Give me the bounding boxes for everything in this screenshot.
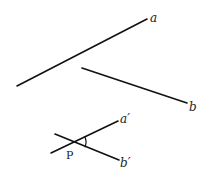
- label-b: b: [189, 100, 197, 114]
- label-b-prime: b′: [120, 156, 131, 170]
- diagram-canvas: a b a′ b′ P: [0, 0, 208, 174]
- angle-arc: [85, 137, 86, 147]
- label-a-prime: a′: [120, 112, 130, 126]
- label-a: a: [150, 11, 157, 25]
- label-point-p: P: [66, 149, 74, 162]
- line-b: [82, 68, 187, 103]
- line-a: [17, 19, 147, 86]
